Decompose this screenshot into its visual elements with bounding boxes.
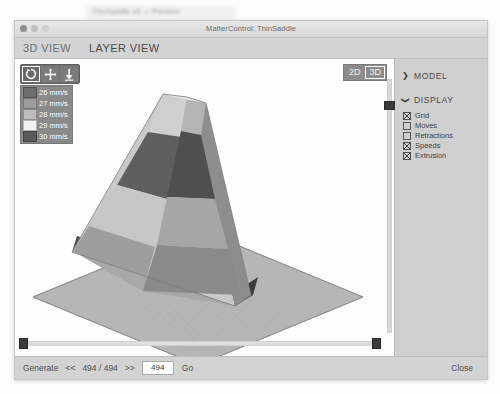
rotate-icon <box>25 68 37 80</box>
display-option-label: Extrusion <box>415 151 446 161</box>
display-option-retractions[interactable]: Retractions <box>403 131 487 141</box>
view-2d-button[interactable]: 2D <box>345 66 365 79</box>
checkbox-moves-icon[interactable] <box>403 122 411 130</box>
legend-swatch <box>23 109 37 120</box>
view-tab-bar: 3D VIEW LAYER VIEW <box>15 38 487 59</box>
viewport: 26 mm/s 27 mm/s 28 mm/s 29 mm/s <box>15 59 487 359</box>
checkbox-extrusion-icon[interactable] <box>403 152 411 160</box>
scale-tool-button[interactable] <box>60 66 78 82</box>
view-3d-button[interactable]: 3D <box>365 66 385 79</box>
display-option-moves[interactable]: Moves <box>403 121 487 131</box>
background-window-title: ThinSaddle.stl — Preview <box>92 8 232 18</box>
tab-3d-view[interactable]: 3D VIEW <box>21 42 73 54</box>
legend-label: 27 mm/s <box>39 98 71 109</box>
legend-item: 27 mm/s <box>22 98 71 109</box>
layer-counter: 494 / 494 <box>82 363 117 373</box>
display-option-speeds[interactable]: Speeds <box>403 141 487 151</box>
legend-swatch <box>23 131 37 142</box>
section-model-header[interactable]: ❯ MODEL <box>395 67 487 85</box>
legend-swatch <box>23 87 37 98</box>
screenshot-root: ThinSaddle.stl — Preview MatterControl: … <box>0 0 500 394</box>
generate-button[interactable]: Generate <box>23 363 58 373</box>
chevron-right-icon: ❯ <box>401 72 409 80</box>
options-panel: ❯ MODEL ❯ DISPLAY Grid Moves <box>394 59 487 359</box>
legend-item: 30 mm/s <box>22 131 71 142</box>
feature-range-handle-right[interactable] <box>372 338 381 349</box>
chevron-down-icon: ❯ <box>401 96 409 104</box>
feature-range-slider[interactable] <box>19 338 381 347</box>
feature-range-handle-left[interactable] <box>19 338 28 349</box>
section-display-header[interactable]: ❯ DISPLAY <box>395 91 487 109</box>
legend-item: 26 mm/s <box>22 87 71 98</box>
legend-swatch <box>23 120 37 131</box>
view-dimension-toggle: 2D 3D <box>343 64 387 81</box>
go-button[interactable]: Go <box>182 363 193 373</box>
scale-icon <box>63 68 75 81</box>
title-bar: MatterControl: ThinSaddle <box>15 21 487 38</box>
checkbox-grid-icon[interactable] <box>403 112 411 120</box>
layer-slider-handle[interactable] <box>384 101 395 110</box>
next-layer-button[interactable]: >> <box>125 363 135 373</box>
move-tool-button[interactable] <box>41 66 59 82</box>
legend-label: 30 mm/s <box>39 131 71 142</box>
tab-layer-view[interactable]: LAYER VIEW <box>87 42 161 54</box>
canvas-area[interactable]: 26 mm/s 27 mm/s 28 mm/s 29 mm/s <box>15 59 395 359</box>
legend-label: 29 mm/s <box>39 120 71 131</box>
rotate-tool-button[interactable] <box>22 66 40 82</box>
display-option-grid[interactable]: Grid <box>403 111 487 121</box>
display-option-extrusion[interactable]: Extrusion <box>403 151 487 161</box>
window-title: MatterControl: ThinSaddle <box>15 24 487 33</box>
legend-item: 28 mm/s <box>22 109 71 120</box>
transform-toolbar <box>20 64 80 84</box>
close-button[interactable]: Close <box>445 362 479 374</box>
display-option-label: Retractions <box>415 131 453 141</box>
section-display-title: DISPLAY <box>414 95 453 105</box>
feature-range-track[interactable] <box>25 341 375 346</box>
checkbox-retractions-icon[interactable] <box>403 132 411 140</box>
layer-number-input[interactable] <box>142 361 174 375</box>
legend-label: 28 mm/s <box>39 109 71 120</box>
legend-swatch <box>23 98 37 109</box>
display-option-label: Moves <box>415 121 437 131</box>
legend-item: 29 mm/s <box>22 120 71 131</box>
layer-slider-track[interactable] <box>387 79 392 333</box>
layer-slider[interactable] <box>384 79 392 333</box>
app-window: MatterControl: ThinSaddle 3D VIEW LAYER … <box>14 20 488 380</box>
display-option-label: Grid <box>415 111 429 121</box>
display-options-list: Grid Moves Retractions Speeds <box>395 109 487 161</box>
display-option-label: Speeds <box>415 141 440 151</box>
move-icon <box>44 68 57 81</box>
speed-legend: 26 mm/s 27 mm/s 28 mm/s 29 mm/s <box>20 85 73 144</box>
checkbox-speeds-icon[interactable] <box>403 142 411 150</box>
legend-label: 26 mm/s <box>39 87 71 98</box>
section-model-title: MODEL <box>414 71 447 81</box>
bottom-bar: Generate << 494 / 494 >> Go Close <box>15 356 487 379</box>
previous-layer-button[interactable]: << <box>65 363 75 373</box>
